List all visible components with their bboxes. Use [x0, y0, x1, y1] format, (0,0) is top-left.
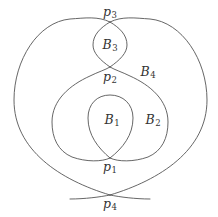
region-label-B3-base: B [102, 37, 111, 52]
region-label-B1-sub: 1 [114, 118, 119, 128]
region-label-B4: B4 [140, 66, 155, 80]
region-label-B2-base: B [145, 112, 154, 127]
point-label-p3-base: p [103, 4, 111, 19]
region-label-B3: B3 [102, 39, 117, 53]
region-label-B4-sub: 4 [150, 70, 155, 80]
point-label-p1-base: p [103, 159, 111, 174]
point-label-p2-base: p [103, 69, 111, 84]
middle-lobe-left-curve [52, 67, 110, 161]
point-label-p1-sub: 1 [112, 165, 117, 175]
point-label-p4-base: p [103, 196, 111, 211]
outer-loop-right-curve [110, 18, 207, 195]
point-label-p4-sub: 4 [112, 202, 117, 212]
region-label-B1: B1 [104, 114, 119, 128]
curve-diagram [0, 0, 218, 217]
region-label-B2: B2 [145, 114, 160, 128]
outer-loop-left-curve [14, 18, 110, 195]
region-label-B1-base: B [104, 112, 113, 127]
point-label-p2: p2 [103, 71, 117, 85]
point-label-p3: p3 [103, 6, 117, 20]
point-label-p4: p4 [103, 198, 117, 212]
point-label-p3-sub: 3 [112, 10, 117, 20]
region-label-B2-sub: 2 [155, 118, 160, 128]
region-label-B3-sub: 3 [112, 43, 117, 53]
point-label-p1: p1 [103, 161, 117, 175]
region-label-B4-base: B [140, 64, 149, 79]
point-label-p2-sub: 2 [112, 75, 117, 85]
